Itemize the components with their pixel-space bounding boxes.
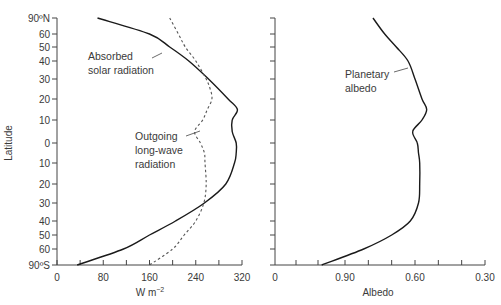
x-tick-label: 320 [234, 272, 251, 283]
y-tick-label: 10 [39, 115, 51, 126]
y-tick-label: 40 [39, 56, 51, 67]
x-tick-label: 0 [272, 272, 278, 283]
right-panel: 00.900.600.30 Albedo Planetary albedo [270, 18, 495, 298]
y-tick-label: 0 [44, 138, 50, 149]
left-x-axis-label: W m−2 [136, 286, 165, 298]
annotation-leader-olr [186, 131, 200, 136]
annotation-outgoing-longwave: Outgoing long-wave radiation [135, 130, 186, 170]
x-tick-label: 0.30 [475, 272, 495, 283]
figure: Latitude 90ºN605040302010010203040506090… [0, 0, 501, 305]
annotation-leader-solar [152, 53, 162, 58]
annotation-leader-albedo [394, 68, 408, 72]
y-tick-label: 30 [39, 74, 51, 85]
x-tick-label: 80 [98, 272, 110, 283]
x-tick-label: 0 [54, 272, 60, 283]
x-tick-label: 0.90 [335, 272, 355, 283]
y-axis-label: Latitude [3, 125, 14, 161]
x-tick-label: 160 [141, 272, 158, 283]
y-tick-label: 30 [39, 198, 51, 209]
annotation-absorbed-solar: Absorbed solar radiation [88, 50, 154, 76]
y-tick-label: 60 [39, 244, 51, 255]
y-tick-label: 20 [39, 179, 51, 190]
y-tick-label: 60 [39, 29, 51, 40]
y-tick-label: 90ºN [28, 13, 50, 24]
y-tick-label: 40 [39, 216, 51, 227]
right-y-ticks [270, 18, 275, 265]
y-tick-label: 90ºS [29, 260, 51, 271]
y-tick-label: 50 [39, 230, 51, 241]
y-tick-label: 50 [39, 42, 51, 53]
x-tick-label: 240 [187, 272, 204, 283]
left-panel: Latitude 90ºN605040302010010203040506090… [3, 13, 251, 299]
planetary-albedo-line [322, 18, 427, 265]
right-x-ticks: 00.900.600.30 [272, 260, 495, 283]
x-tick-label: 0.60 [405, 272, 425, 283]
y-tick-label: 10 [39, 158, 51, 169]
annotation-planetary-albedo: Planetary albedo [345, 68, 392, 94]
left-y-ticks: 90ºN605040302010010203040506090ºS [28, 13, 57, 271]
right-x-axis-label: Albedo [362, 287, 394, 298]
y-tick-label: 20 [39, 94, 51, 105]
